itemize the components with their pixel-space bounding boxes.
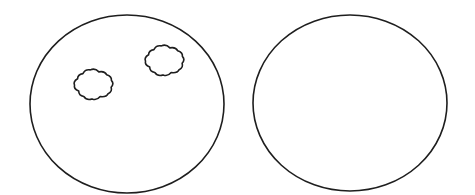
right-circle [253, 15, 447, 191]
left-circle-with-spots [30, 15, 224, 193]
diagram-svg [0, 0, 475, 195]
cloud-spot-2 [145, 45, 184, 75]
right-circle-empty [253, 15, 447, 191]
left-circle [30, 15, 224, 193]
diagram-canvas [0, 0, 475, 195]
cloud-spot-1 [74, 69, 113, 99]
